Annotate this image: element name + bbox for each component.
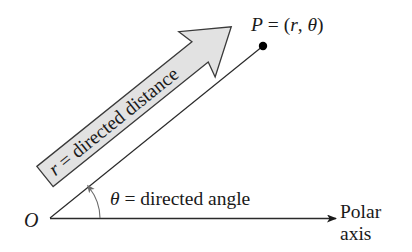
directed-distance-arrow: r = directed distance — [27, 4, 250, 199]
polar-coordinates-diagram: r = directed distance O P = (r, θ) θ = d… — [0, 0, 412, 252]
diagram-canvas: r = directed distance O P = (r, θ) θ = d… — [0, 0, 412, 252]
polar-axis-label-line2: axis — [340, 223, 371, 244]
distance-label: r = directed distance — [45, 63, 183, 180]
angle-label: θ = directed angle — [110, 188, 250, 209]
angle-arc-icon — [90, 188, 101, 218]
polar-axis-label-line1: Polar — [340, 201, 382, 222]
point-p-dot — [259, 42, 267, 50]
origin-label: O — [24, 209, 38, 231]
point-label: P = (r, θ) — [250, 14, 324, 36]
